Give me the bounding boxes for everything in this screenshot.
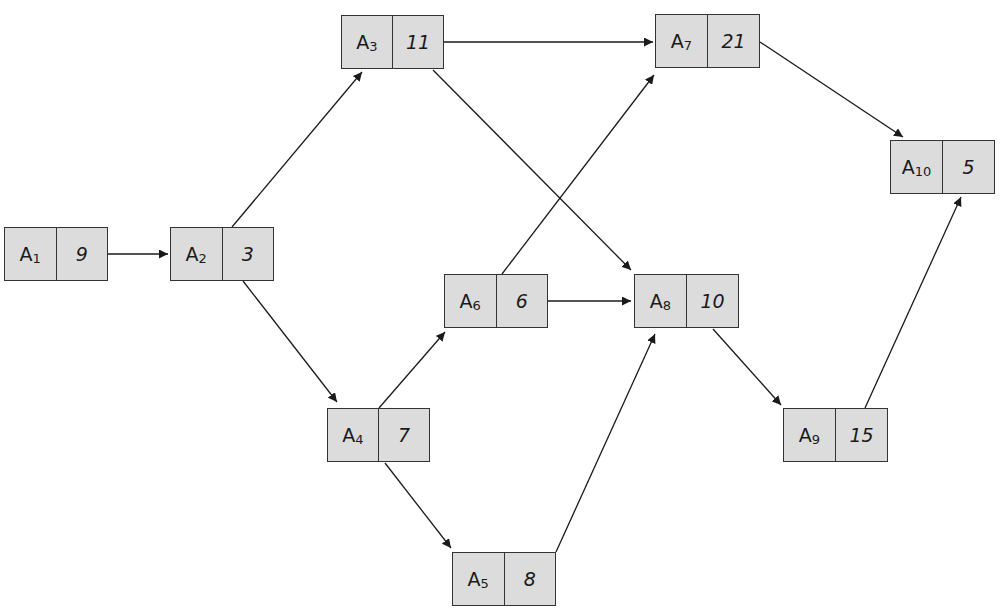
- arrow-a9-to-a10: [865, 197, 961, 408]
- activity-duration: 7: [379, 409, 429, 461]
- activity-node-a3[interactable]: A3 11: [341, 15, 444, 69]
- arrow-a4-to-a6: [379, 332, 445, 408]
- activity-node-a6[interactable]: A6 6: [444, 274, 548, 328]
- activity-duration: 11: [393, 16, 443, 68]
- activity-duration: 3: [223, 228, 274, 280]
- activity-duration: 21: [708, 15, 759, 67]
- activity-duration: 10: [687, 275, 738, 327]
- activity-name: A7: [656, 15, 708, 67]
- arrow-a8-to-a9: [713, 329, 781, 405]
- arrow-a6-to-a7: [502, 75, 654, 274]
- activity-node-a7[interactable]: A7 21: [655, 14, 760, 68]
- activity-duration: 9: [57, 228, 108, 280]
- activity-node-a2[interactable]: A2 3: [170, 227, 274, 281]
- activity-name: A8: [635, 275, 687, 327]
- activity-name: A3: [342, 16, 393, 68]
- arrow-a2-to-a3: [232, 72, 362, 227]
- activity-name: A10: [891, 141, 943, 193]
- activity-duration: 8: [505, 553, 556, 605]
- arrow-a4-to-a5: [385, 463, 451, 548]
- arrow-a2-to-a4: [243, 281, 337, 402]
- activity-node-a1[interactable]: A1 9: [4, 227, 108, 281]
- activity-duration: 6: [497, 275, 548, 327]
- activity-name: A2: [171, 228, 223, 280]
- activity-node-a8[interactable]: A8 10: [634, 274, 739, 328]
- activity-node-a10[interactable]: A10 5: [890, 140, 995, 194]
- activity-duration: 5: [943, 141, 994, 193]
- activity-name: A4: [328, 409, 379, 461]
- activity-node-a9[interactable]: A9 15: [783, 408, 888, 462]
- activity-name: A5: [453, 553, 505, 605]
- activity-node-a4[interactable]: A4 7: [327, 408, 430, 462]
- activity-name: A1: [5, 228, 57, 280]
- activity-name: A9: [784, 409, 836, 461]
- arrow-a3-to-a8: [433, 70, 631, 270]
- arrow-a7-to-a10: [760, 42, 903, 137]
- activity-name: A6: [445, 275, 497, 327]
- arrow-a5-to-a8: [556, 334, 655, 552]
- activity-node-a5[interactable]: A5 8: [452, 552, 556, 606]
- activity-duration: 15: [836, 409, 887, 461]
